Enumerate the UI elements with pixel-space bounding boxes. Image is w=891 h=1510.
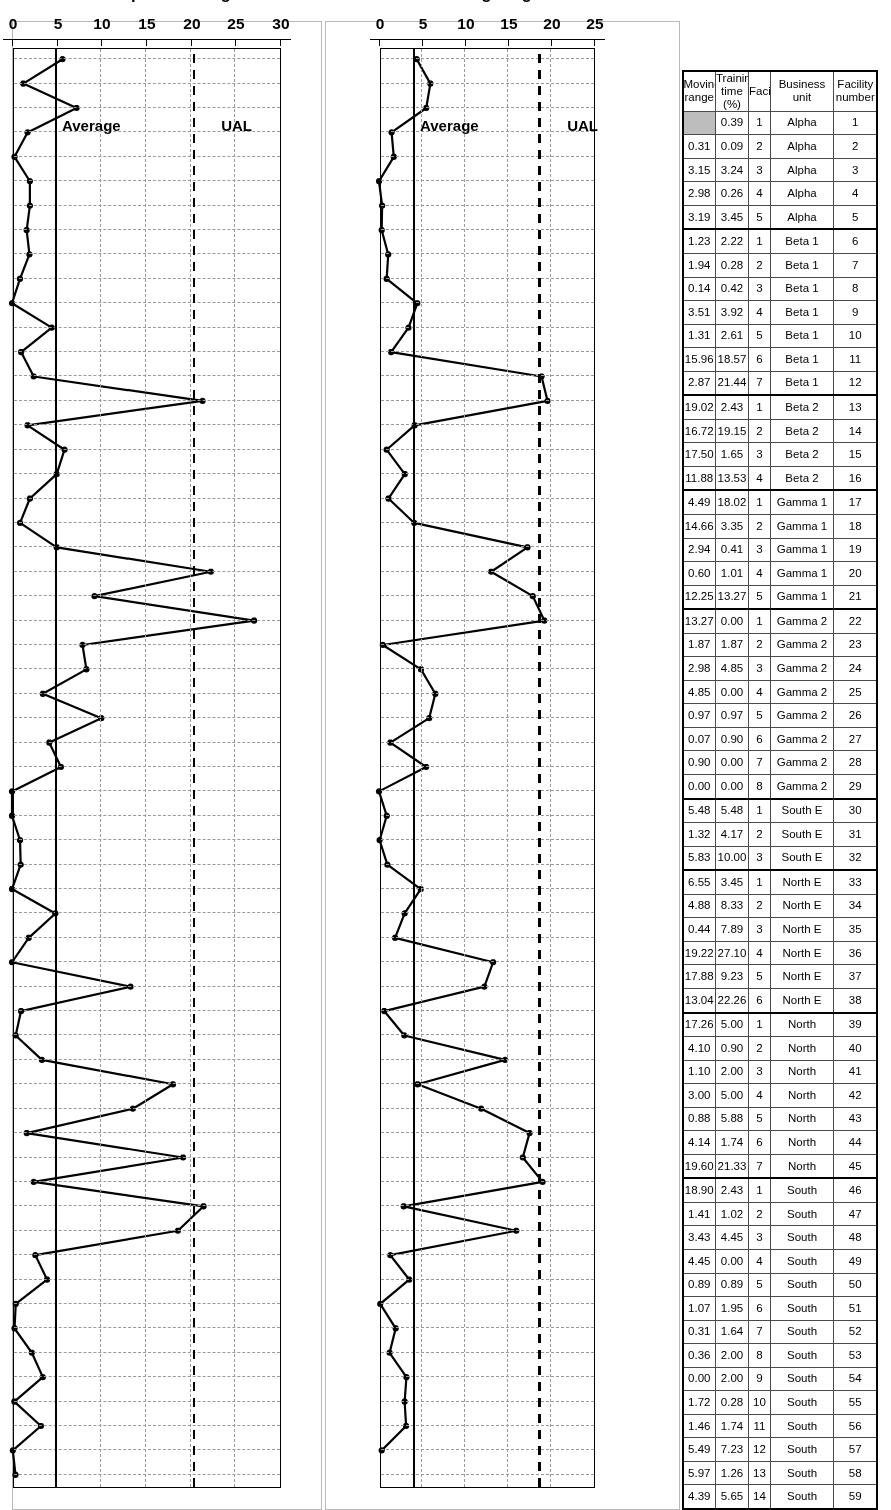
cell-moving_range: 3.43 — [683, 1226, 716, 1250]
cell-training_time: 0.28 — [716, 1391, 749, 1415]
cell-training_time: 4.17 — [716, 823, 749, 847]
cell-business_unit: Beta 1 — [771, 301, 834, 325]
cell-facility_number: 16 — [834, 466, 877, 490]
cell-facility_number: 45 — [834, 1154, 877, 1178]
table-row: 18Gamma 123.3514.66 — [683, 515, 877, 539]
cell-facility: 1 — [749, 1178, 771, 1202]
cell-business_unit: South — [771, 1178, 834, 1202]
cell-facility: 1 — [749, 229, 771, 253]
table-row: 2Alpha20.090.31 — [683, 135, 877, 159]
cell-facility_number: 56 — [834, 1414, 877, 1438]
cell-moving_range: 1.31 — [683, 324, 716, 348]
cell-moving_range: 17.88 — [683, 965, 716, 989]
cell-training_time: 0.90 — [716, 727, 749, 751]
cell-business_unit: South — [771, 1297, 834, 1321]
cell-business_unit: North E — [771, 965, 834, 989]
axis-tick — [146, 39, 147, 46]
cell-business_unit: South — [771, 1249, 834, 1273]
cell-business_unit: North E — [771, 941, 834, 965]
cell-training_time: 5.00 — [716, 1013, 749, 1037]
cell-facility_number: 36 — [834, 941, 877, 965]
cell-training_time: 21.33 — [716, 1154, 749, 1178]
axis-tick-label: 25 — [220, 15, 252, 33]
cell-moving_range: 19.02 — [683, 395, 716, 419]
gridline-value — [507, 49, 508, 1487]
table-row: 31South E24.171.32 — [683, 823, 877, 847]
axis-tick-label: 25 — [579, 15, 611, 33]
table-row: 7Beta 120.281.94 — [683, 254, 877, 278]
table-row: 34North E28.334.88 — [683, 894, 877, 918]
cell-business_unit: Gamma 2 — [771, 751, 834, 775]
table-row: 56South111.741.46 — [683, 1414, 877, 1438]
col-header-moving-range: Moving range — [683, 71, 716, 111]
cell-business_unit: Beta 1 — [771, 277, 834, 301]
cell-business_unit: Gamma 2 — [771, 657, 834, 681]
cell-training_time: 7.89 — [716, 918, 749, 942]
cell-training_time: 0.89 — [716, 1273, 749, 1297]
cell-facility: 3 — [749, 277, 771, 301]
cell-training_time: 1.65 — [716, 443, 749, 467]
cell-business_unit: North E — [771, 870, 834, 894]
cell-facility: 4 — [749, 301, 771, 325]
axis-tick-label: 5 — [42, 15, 74, 33]
cell-facility: 2 — [749, 1202, 771, 1226]
cell-moving_range: 1.41 — [683, 1202, 716, 1226]
moving-range-axis-title: Moving range — [380, 0, 595, 3]
cell-facility: 8 — [749, 1344, 771, 1368]
table-row: 50South50.890.89 — [683, 1273, 877, 1297]
cell-training_time: 1.02 — [716, 1202, 749, 1226]
col-header-business-unit: Business unit — [771, 71, 834, 111]
cell-facility: 6 — [749, 1297, 771, 1321]
cell-moving_range: 17.50 — [683, 443, 716, 467]
cell-facility: 11 — [749, 1414, 771, 1438]
table-row: 24Gamma 234.852.98 — [683, 657, 877, 681]
table-row: 53South82.000.36 — [683, 1344, 877, 1368]
cell-business_unit: Beta 2 — [771, 419, 834, 443]
cell-moving_range: 0.31 — [683, 1320, 716, 1344]
cell-moving_range: 2.87 — [683, 371, 716, 395]
cell-facility_number: 25 — [834, 680, 877, 704]
moving-range-series — [379, 47, 594, 1487]
cell-training_time: 2.43 — [716, 1178, 749, 1202]
cell-training_time: 0.42 — [716, 277, 749, 301]
cell-training_time: 9.23 — [716, 965, 749, 989]
table-row: 15Beta 231.6517.50 — [683, 443, 877, 467]
cell-moving_range: 5.49 — [683, 1438, 716, 1462]
table-row: 17Gamma 1118.024.49 — [683, 490, 877, 514]
cell-facility_number: 51 — [834, 1297, 877, 1321]
cell-facility: 2 — [749, 894, 771, 918]
table-row: 9Beta 143.923.51 — [683, 301, 877, 325]
cell-moving_range: 4.14 — [683, 1131, 716, 1155]
cell-facility: 2 — [749, 633, 771, 657]
cell-facility: 4 — [749, 182, 771, 206]
cell-facility_number: 44 — [834, 1131, 877, 1155]
cell-facility: 4 — [749, 1249, 771, 1273]
cell-training_time: 0.00 — [716, 775, 749, 799]
cell-training_time: 21.44 — [716, 371, 749, 395]
cell-facility: 10 — [749, 1391, 771, 1415]
cell-facility_number: 21 — [834, 585, 877, 609]
ual-control-line — [193, 49, 196, 1487]
table-row: 32South E310.005.83 — [683, 846, 877, 870]
cell-facility_number: 38 — [834, 988, 877, 1012]
cell-moving_range: 17.26 — [683, 1013, 716, 1037]
cell-moving_range: 3.15 — [683, 158, 716, 182]
cell-facility: 2 — [749, 254, 771, 278]
cell-business_unit: North — [771, 1154, 834, 1178]
cell-business_unit: Alpha — [771, 135, 834, 159]
cell-business_unit: Gamma 2 — [771, 704, 834, 728]
table-row: 52South71.640.31 — [683, 1320, 877, 1344]
cell-facility_number: 23 — [834, 633, 877, 657]
cell-facility: 1 — [749, 870, 771, 894]
average-control-line — [413, 49, 415, 1487]
moving-range-chart-panel: 0510152025 Moving range AverageUAL — [325, 21, 680, 1510]
cell-moving_range: 19.60 — [683, 1154, 716, 1178]
cell-facility_number: 52 — [834, 1320, 877, 1344]
cell-moving_range: 0.31 — [683, 135, 716, 159]
cell-facility: 2 — [749, 135, 771, 159]
table-row: 37North E59.2317.88 — [683, 965, 877, 989]
cell-moving_range: 5.83 — [683, 846, 716, 870]
gridline-value — [550, 49, 551, 1487]
cell-training_time: 0.00 — [716, 609, 749, 633]
table-row: 11Beta 1618.5715.96 — [683, 348, 877, 372]
